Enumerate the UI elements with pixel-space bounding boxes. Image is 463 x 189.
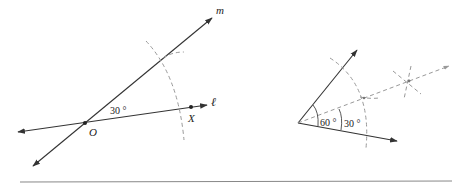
bisector-intersection bbox=[408, 80, 411, 83]
point-x bbox=[189, 105, 193, 109]
angle-arc-30 bbox=[339, 109, 342, 130]
line-m-label: m bbox=[216, 4, 224, 16]
angle-arc-60 bbox=[313, 105, 318, 126]
construction-diagram: m ℓ O X 30 ° 60 ° 30 ° bbox=[0, 0, 463, 189]
angle-label-30-right: 30 ° bbox=[344, 118, 361, 129]
point-o bbox=[83, 121, 87, 125]
line-m bbox=[33, 18, 212, 166]
point-o-label: O bbox=[89, 126, 97, 138]
angle-label-30: 30 ° bbox=[110, 105, 127, 116]
figure-right: 60 ° 30 ° bbox=[298, 50, 449, 148]
figure-left: m ℓ O X 30 ° bbox=[18, 4, 224, 166]
point-x-label: X bbox=[187, 112, 196, 124]
angle-label-60: 60 ° bbox=[320, 117, 337, 128]
arc-intersection bbox=[363, 97, 366, 100]
intersection-arc bbox=[163, 52, 184, 58]
line-l-label: ℓ bbox=[211, 95, 216, 109]
bottom-rule bbox=[20, 181, 452, 182]
compass-arc bbox=[146, 41, 184, 140]
